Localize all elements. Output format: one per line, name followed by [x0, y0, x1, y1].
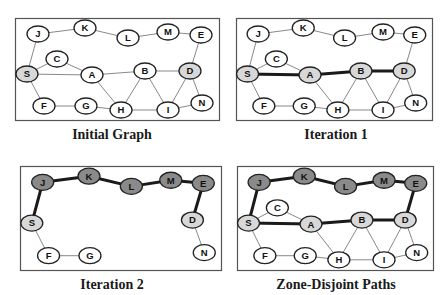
svg-text:D: D: [189, 214, 196, 225]
svg-text:I: I: [167, 104, 170, 115]
node-E: E: [190, 27, 212, 43]
node-G: G: [79, 248, 101, 264]
svg-text:K: K: [300, 22, 307, 33]
node-I: I: [372, 102, 394, 118]
node-J: J: [27, 26, 49, 42]
svg-text:H: H: [335, 254, 342, 265]
svg-text:I: I: [383, 254, 386, 265]
svg-text:S: S: [245, 217, 251, 228]
svg-text:A: A: [307, 69, 314, 80]
svg-text:F: F: [261, 100, 267, 111]
node-C: C: [266, 200, 288, 216]
node-A: A: [299, 67, 321, 83]
svg-text:G: G: [301, 100, 308, 111]
node-S: S: [237, 66, 259, 82]
svg-text:F: F: [41, 100, 47, 111]
svg-text:E: E: [413, 178, 419, 189]
node-G: G: [75, 98, 97, 114]
svg-text:J: J: [35, 28, 40, 39]
panel-iteration-1: JKLMECSABDFGHIN: [236, 18, 433, 121]
caption-initial-graph: Initial Graph: [0, 127, 224, 143]
svg-text:H: H: [118, 104, 125, 115]
node-I: I: [373, 252, 395, 268]
svg-text:G: G: [86, 250, 93, 261]
svg-text:J: J: [256, 177, 261, 188]
svg-text:A: A: [89, 69, 96, 80]
svg-text:C: C: [54, 53, 61, 64]
node-D: D: [179, 63, 201, 79]
node-L: L: [334, 30, 356, 46]
node-E: E: [192, 175, 214, 191]
svg-text:S: S: [244, 68, 250, 79]
svg-text:L: L: [128, 181, 134, 192]
node-G: G: [294, 248, 316, 264]
svg-text:E: E: [198, 29, 204, 40]
node-L: L: [120, 178, 142, 194]
node-N: N: [191, 95, 213, 111]
svg-text:L: L: [125, 32, 131, 43]
node-N: N: [405, 95, 427, 111]
svg-text:K: K: [301, 171, 308, 182]
svg-text:E: E: [412, 29, 418, 40]
caption-iteration-2: Iteration 2: [0, 277, 224, 293]
svg-text:M: M: [164, 26, 172, 37]
node-K: K: [292, 20, 314, 36]
svg-text:B: B: [142, 65, 149, 76]
svg-text:K: K: [82, 22, 89, 33]
svg-text:D: D: [187, 65, 194, 76]
svg-text:N: N: [201, 247, 208, 258]
svg-text:J: J: [255, 28, 260, 39]
svg-text:N: N: [413, 247, 420, 258]
svg-text:J: J: [40, 177, 45, 188]
caption-iteration-1: Iteration 1: [224, 127, 448, 143]
node-N: N: [406, 245, 428, 261]
node-B: B: [134, 63, 156, 79]
node-I: I: [157, 102, 179, 118]
node-E: E: [404, 27, 426, 43]
graph-canvas: JKLMECSABDFGHIN: [15, 18, 220, 121]
node-B: B: [351, 212, 373, 228]
node-S: S: [21, 215, 43, 231]
node-C: C: [265, 51, 287, 67]
node-M: M: [157, 24, 179, 40]
node-M: M: [372, 24, 394, 40]
node-M: M: [160, 172, 182, 188]
node-A: A: [81, 67, 103, 83]
panel-iteration-2: JKLMESDFGN: [20, 166, 222, 271]
node-F: F: [254, 248, 276, 264]
svg-text:L: L: [342, 32, 348, 43]
svg-text:F: F: [262, 250, 268, 261]
svg-text:K: K: [86, 171, 93, 182]
node-K: K: [293, 168, 315, 184]
svg-text:D: D: [401, 65, 408, 76]
node-K: K: [74, 20, 96, 36]
svg-text:G: G: [82, 100, 89, 111]
svg-text:B: B: [357, 65, 364, 76]
node-H: H: [327, 102, 349, 118]
node-F: F: [33, 98, 55, 114]
svg-text:D: D: [402, 214, 409, 225]
node-D: D: [394, 212, 416, 228]
node-B: B: [350, 63, 372, 79]
node-F: F: [253, 98, 275, 114]
node-D: D: [393, 63, 415, 79]
node-J: J: [247, 26, 269, 42]
graph-canvas: JKLMECSABDFGHIN: [236, 18, 433, 121]
panel-initial-graph: JKLMECSABDFGHIN: [15, 18, 220, 121]
node-H: H: [328, 252, 350, 268]
node-J: J: [32, 174, 54, 190]
node-F: F: [38, 248, 60, 264]
node-E: E: [405, 175, 427, 191]
node-G: G: [293, 98, 315, 114]
node-H: H: [110, 102, 132, 118]
node-K: K: [78, 168, 100, 184]
svg-text:N: N: [412, 97, 419, 108]
svg-text:H: H: [334, 104, 341, 115]
svg-text:L: L: [343, 181, 349, 192]
node-L: L: [117, 30, 139, 46]
panel-zone-disjoint-paths: JKLMECSABDFGHIN: [237, 166, 434, 271]
node-D: D: [181, 212, 203, 228]
svg-text:A: A: [308, 219, 315, 230]
svg-text:M: M: [167, 175, 175, 186]
node-M: M: [373, 172, 395, 188]
